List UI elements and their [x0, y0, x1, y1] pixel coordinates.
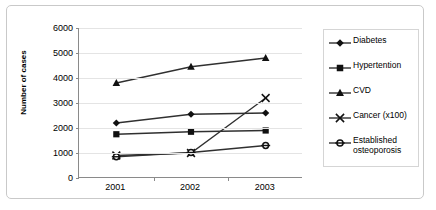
gridline: [79, 53, 302, 54]
x-axis-tick-mark: [228, 177, 229, 181]
y-axis-tick-mark: [76, 78, 79, 79]
legend-symbol: [328, 87, 352, 99]
legend-item: Cancer (x100): [328, 110, 420, 122]
chart-legend: DiabetesHypertentionCVDCancer (x100)Esta…: [323, 29, 419, 167]
y-axis-tick-label: 3000: [53, 98, 73, 108]
gridline: [79, 128, 302, 129]
series-line: [116, 58, 265, 83]
series-line: [116, 98, 265, 156]
legend-item: Established osteoporosis: [328, 135, 420, 155]
legend-label: Diabetes: [353, 35, 387, 45]
y-axis-title: Number of cases: [19, 33, 28, 133]
chart-frame: Number of cases 010002000300040005000600…: [6, 5, 424, 199]
data-point-square: [337, 65, 344, 72]
y-axis-tick-mark: [76, 103, 79, 104]
y-axis-tick-mark: [76, 128, 79, 129]
legend-item: Diabetes: [328, 35, 420, 47]
data-point-square: [113, 131, 119, 137]
data-point-diamond: [336, 39, 344, 47]
legend-marker-x-icon: [328, 110, 352, 122]
legend-marker-diamond-icon: [328, 35, 352, 47]
legend-symbol: [328, 112, 352, 124]
x-axis-tick-label: 2001: [105, 182, 125, 192]
legend-item: CVD: [328, 85, 420, 97]
y-axis-tick-mark: [76, 28, 79, 29]
x-axis-tick-label: 2002: [180, 182, 200, 192]
legend-marker-triangle-icon: [328, 85, 352, 97]
gridline: [79, 153, 302, 154]
x-axis-tick-label: 2003: [255, 182, 275, 192]
plot-area: [78, 28, 302, 178]
data-point-diamond: [262, 109, 269, 116]
line-chart: Number of cases 010002000300040005000600…: [7, 6, 317, 200]
data-point-diamond: [113, 119, 120, 126]
y-axis-tick-labels: 0100020003000400050006000: [29, 22, 73, 184]
legend-label: Cancer (x100): [353, 110, 407, 120]
gridline: [79, 103, 302, 104]
x-axis-tick-mark: [154, 177, 155, 181]
y-axis-tick-label: 6000: [53, 23, 73, 33]
data-point-x: [262, 94, 270, 102]
y-axis-tick-label: 0: [68, 173, 73, 183]
data-point-circle-dash: [335, 140, 344, 146]
y-axis-tick-mark: [76, 53, 79, 54]
y-axis-tick-label: 1000: [53, 148, 73, 158]
legend-symbol: [328, 62, 352, 74]
legend-item: Hypertention: [328, 60, 420, 72]
legend-marker-circle-dash-icon: [328, 135, 352, 147]
y-axis-tick-mark: [76, 178, 79, 179]
data-point-diamond: [187, 111, 194, 118]
data-point-circle-dash: [261, 143, 270, 149]
legend-symbol: [328, 137, 352, 149]
x-axis-tick-labels: 200120022003: [78, 182, 302, 198]
gridline: [79, 28, 302, 29]
legend-label: CVD: [353, 85, 371, 95]
legend-symbol: [328, 37, 352, 49]
y-axis-tick-label: 4000: [53, 73, 73, 83]
legend-label: Hypertention: [353, 60, 401, 70]
gridline: [79, 78, 302, 79]
y-axis-tick-label: 5000: [53, 48, 73, 58]
y-axis-tick-mark: [76, 153, 79, 154]
legend-marker-square-icon: [328, 60, 352, 72]
legend-label: Established osteoporosis: [353, 135, 420, 155]
data-point-square: [188, 129, 194, 135]
y-axis-tick-label: 2000: [53, 123, 73, 133]
data-point-triangle: [262, 54, 270, 61]
